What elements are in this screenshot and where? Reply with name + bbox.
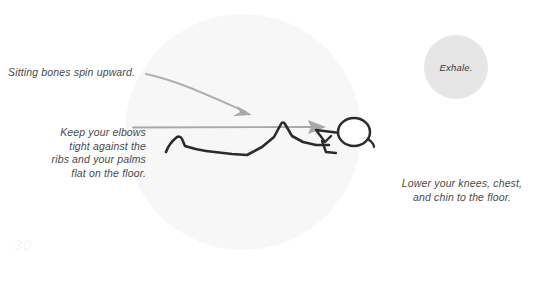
page-number: 30 (14, 236, 32, 253)
annotation-sitting-bones: Sitting bones spin upward. (8, 66, 135, 79)
annotation-elbows-line-1: Keep your elbows (14, 126, 146, 140)
curved-arrow-to-hips (146, 74, 252, 116)
figure-head (338, 118, 374, 147)
illustration-page: Exhale. Sitting bones spin upward. Keep … (0, 0, 535, 281)
annotation-elbows-line-2: tight against the (14, 140, 146, 154)
annotation-lower-knees-line-1: Lower your knees, chest, (392, 176, 532, 190)
breath-cue-label: Exhale. (439, 62, 472, 73)
annotation-elbows: Keep your elbows tight against the ribs … (14, 126, 146, 180)
breath-cue-circle: Exhale. (424, 35, 488, 99)
annotation-lower-knees-line-2: and chin to the floor. (392, 190, 532, 204)
straight-arrow-to-head (133, 120, 326, 134)
annotation-elbows-line-4: flat on the floor. (14, 167, 146, 181)
figure-arm-elbow (316, 130, 340, 153)
annotation-elbows-line-3: ribs and your palms (14, 153, 146, 167)
annotation-lower-knees: Lower your knees, chest, and chin to the… (392, 176, 532, 204)
